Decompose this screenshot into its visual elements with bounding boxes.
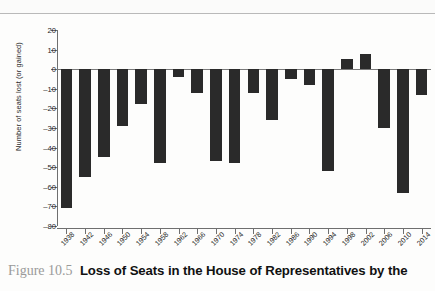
bar [378, 69, 390, 128]
bar [117, 69, 129, 126]
bar [397, 69, 409, 192]
bar [210, 69, 222, 161]
bar [61, 69, 73, 208]
bar [135, 69, 147, 104]
bar [173, 69, 185, 77]
bar [360, 54, 372, 70]
zero-line [57, 69, 431, 70]
y-axis-tick-label: –10 [0, 84, 56, 93]
bar [285, 69, 297, 79]
y-axis-tick-label: –50 [0, 163, 56, 172]
bar [154, 69, 166, 163]
bar [248, 69, 260, 93]
figure-page: Number of seats lost (or gained) 20100–1… [0, 0, 435, 291]
bar [322, 69, 334, 171]
bar [304, 69, 316, 85]
bar [266, 69, 278, 120]
page-top-tint [0, 0, 435, 13]
y-axis-tick-label: –80 [0, 222, 56, 231]
y-axis-tick-label: –40 [0, 143, 56, 152]
y-axis-tick-label: –60 [0, 182, 56, 191]
plot-area: 20100–10–20–30–40–50–60–70–8019381942194… [57, 30, 431, 226]
y-axis-tick-label: 0 [0, 65, 56, 74]
figure-caption: Figure 10.5 Loss of Seats in the House o… [8, 263, 435, 280]
caption-title: Loss of Seats in the House of Representa… [80, 263, 408, 278]
y-axis-tick-label: 20 [0, 26, 56, 35]
x-axis-line [57, 228, 431, 229]
chart-figure: Number of seats lost (or gained) 20100–1… [0, 14, 435, 258]
bar [341, 59, 353, 69]
bar [229, 69, 241, 163]
y-axis-tick-label: 10 [0, 45, 56, 54]
bar [416, 69, 428, 94]
y-axis-line [57, 30, 58, 226]
caption-number: Figure 10.5 [8, 263, 73, 278]
y-axis-tick-label: –30 [0, 124, 56, 133]
bar [98, 69, 110, 157]
y-axis-tick-label: –70 [0, 202, 56, 211]
bar [79, 69, 91, 177]
y-axis-tick-label: –20 [0, 104, 56, 113]
bar [191, 69, 203, 93]
